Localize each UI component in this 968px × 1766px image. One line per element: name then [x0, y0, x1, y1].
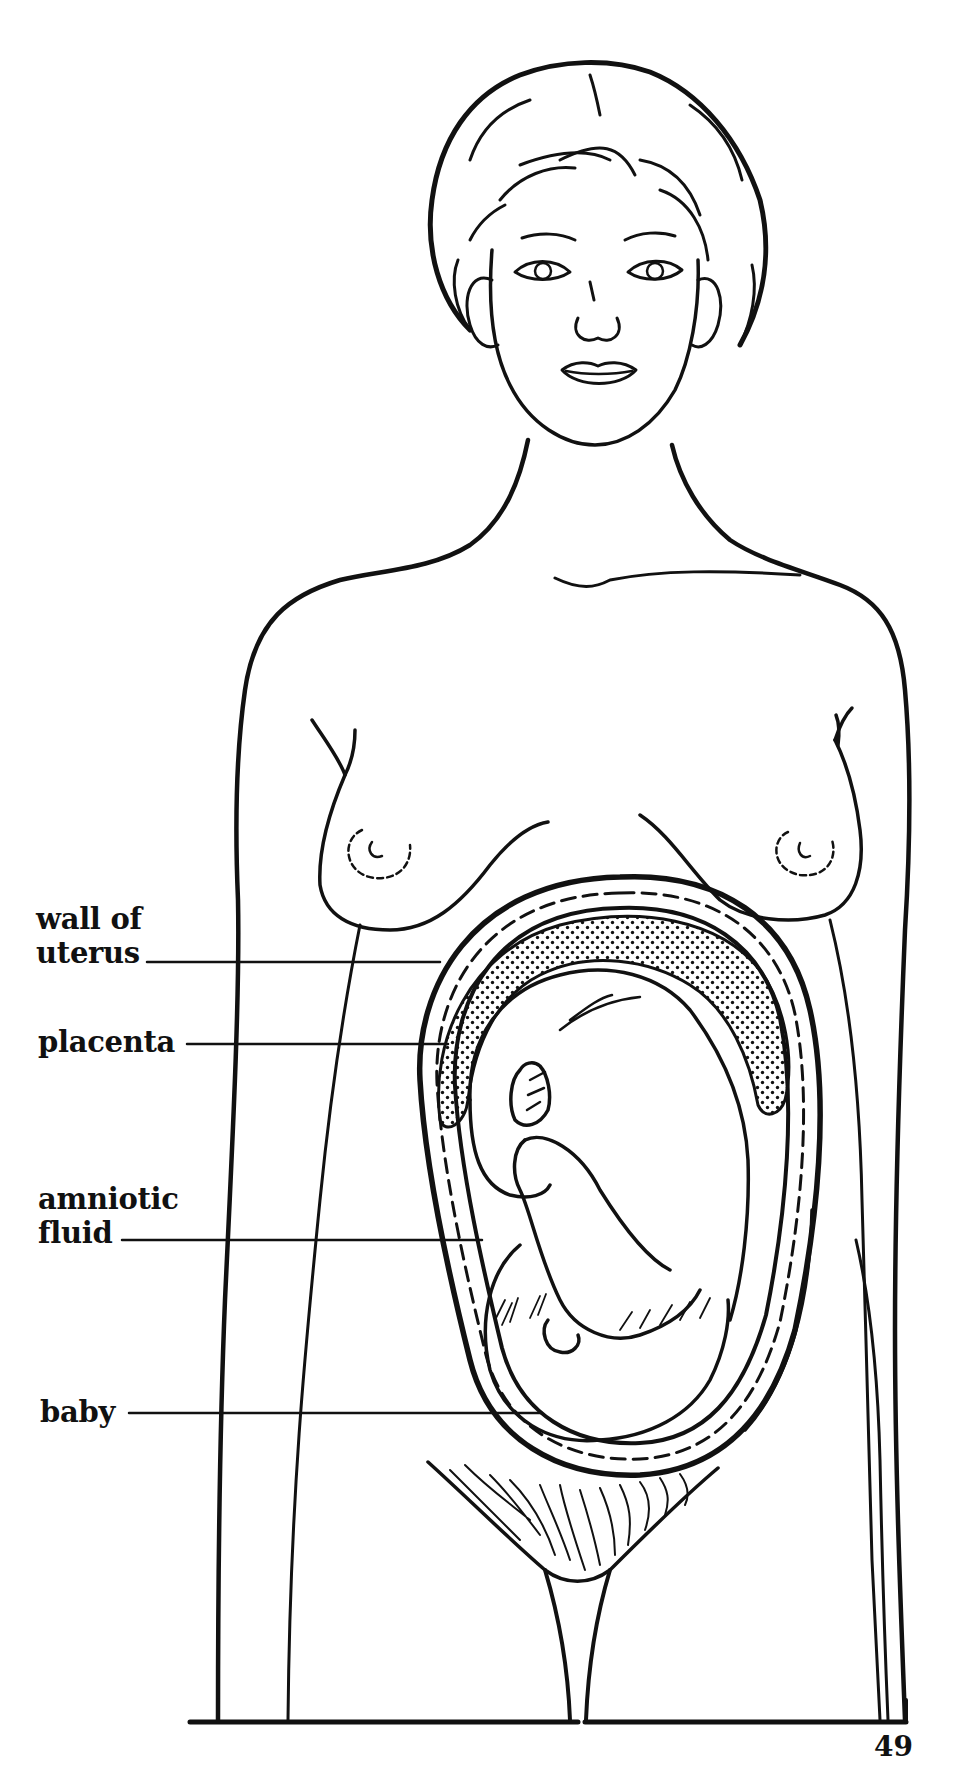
- page-number: 49: [874, 1730, 913, 1763]
- label-wall-of-uterus-line2: uterus: [36, 936, 142, 970]
- label-placenta-text: placenta: [38, 1025, 175, 1059]
- label-wall-of-uterus-line1: wall of: [36, 902, 142, 936]
- pregnancy-illustration: [0, 0, 968, 1766]
- label-placenta: placenta: [38, 1025, 175, 1059]
- label-amniotic-fluid-line1: amniotic: [38, 1182, 179, 1216]
- pubic-hair: [428, 1462, 718, 1581]
- uterus: [420, 877, 820, 1476]
- torso-outline: [218, 440, 910, 1720]
- label-baby-text: baby: [40, 1395, 115, 1429]
- label-baby: baby: [40, 1395, 115, 1429]
- label-amniotic-fluid: amniotic fluid: [38, 1182, 179, 1250]
- legs: [545, 1570, 610, 1720]
- head: [430, 63, 765, 445]
- label-wall-of-uterus: wall of uterus: [36, 902, 142, 970]
- collarbone: [555, 572, 800, 587]
- label-amniotic-fluid-line2: fluid: [38, 1216, 179, 1250]
